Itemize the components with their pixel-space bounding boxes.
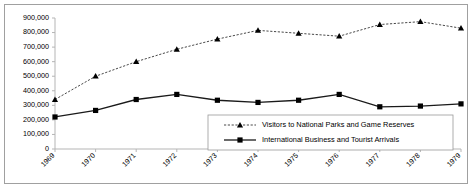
x-axis-label: 1973 (201, 151, 219, 169)
legend-label-1: Visitors to National Parks and Game Rese… (262, 120, 415, 129)
x-axis-label: 1975 (282, 151, 300, 169)
data-point-marker (418, 103, 423, 108)
data-point-marker (337, 92, 342, 97)
x-axis-label: 1977 (364, 151, 382, 169)
data-point-marker (52, 114, 57, 119)
data-point-marker (174, 92, 179, 97)
data-point-marker (93, 73, 99, 79)
y-axis-label: 700,000 (23, 42, 49, 51)
data-point-marker (296, 30, 302, 36)
series-line-1 (55, 22, 461, 100)
y-axis-label: 900,000 (23, 13, 49, 22)
data-point-marker (215, 98, 220, 103)
chart-frame: 0100,000200,000300,000400,000500,000600,… (4, 4, 468, 184)
y-axis-label: 600,000 (23, 57, 49, 66)
data-point-marker (377, 104, 382, 109)
y-axis-label: 500,000 (23, 71, 49, 80)
x-axis-label: 1972 (161, 151, 179, 169)
x-axis-label: 1970 (79, 151, 97, 169)
data-point-marker (296, 98, 301, 103)
data-point-marker (377, 21, 383, 27)
data-point-marker (255, 27, 261, 33)
y-axis-label: 100,000 (23, 129, 49, 138)
y-axis-label: 200,000 (23, 115, 49, 124)
series-line-2 (55, 94, 461, 117)
x-axis-label: 1969 (39, 151, 57, 169)
data-point-marker (458, 101, 463, 106)
line-chart: 0100,000200,000300,000400,000500,000600,… (5, 5, 469, 185)
x-axis-label: 1978 (404, 151, 422, 169)
x-axis-label: 1976 (323, 151, 341, 169)
data-point-marker (134, 97, 139, 102)
x-axis-label: 1974 (242, 151, 260, 169)
data-point-marker (93, 108, 98, 113)
y-axis-label: 400,000 (23, 86, 49, 95)
x-axis-label: 1979 (445, 151, 463, 169)
y-axis-label: 800,000 (23, 27, 49, 36)
x-axis-label: 1971 (120, 151, 138, 169)
legend-label-2: International Business and Tourist Arriv… (262, 135, 399, 144)
data-point-marker (255, 100, 260, 105)
data-point-marker (336, 33, 342, 39)
data-point-marker (417, 19, 423, 25)
data-point-marker (52, 96, 58, 102)
legend-marker-square (237, 137, 242, 142)
y-axis-label: 300,000 (23, 100, 49, 109)
